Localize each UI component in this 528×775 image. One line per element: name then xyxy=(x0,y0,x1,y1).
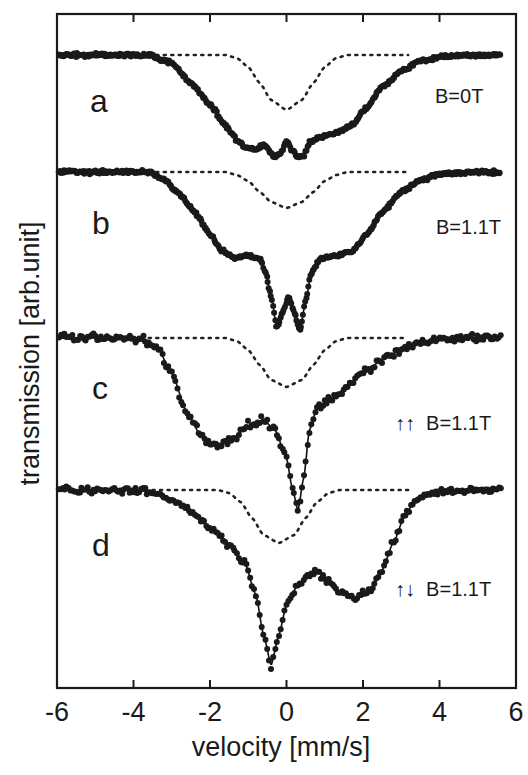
spectra-plot xyxy=(0,0,528,775)
field-annotation-a: B=0T xyxy=(435,85,483,108)
dotted-component-d xyxy=(153,490,409,543)
field-annotation-d: ↑↓ B=1.1T xyxy=(395,578,491,601)
field-annotation-c: ↑↑ B=1.1T xyxy=(395,412,491,435)
panel-label-c: c xyxy=(92,370,108,407)
field-annotation-b: B=1.1T xyxy=(436,216,501,239)
fit-line-b xyxy=(59,172,500,330)
x-tick-label: 0 xyxy=(279,697,294,728)
x-tick-label: 2 xyxy=(355,697,370,728)
x-axis-label: velocity [mm/s] xyxy=(0,732,528,763)
data-points-b xyxy=(56,167,503,333)
x-tick-label: 4 xyxy=(432,697,447,728)
panel-label-d: d xyxy=(92,527,110,564)
panel-label-a: a xyxy=(90,83,108,120)
y-axis-label: transmission [arb.unit] xyxy=(15,154,46,554)
x-tick-label: 6 xyxy=(508,697,523,728)
x-tick-label: -6 xyxy=(45,697,69,728)
panel-label-b: b xyxy=(92,205,110,242)
x-tick-label: -2 xyxy=(198,697,222,728)
dotted-component-c xyxy=(149,338,408,387)
x-tick-label: -4 xyxy=(121,697,145,728)
